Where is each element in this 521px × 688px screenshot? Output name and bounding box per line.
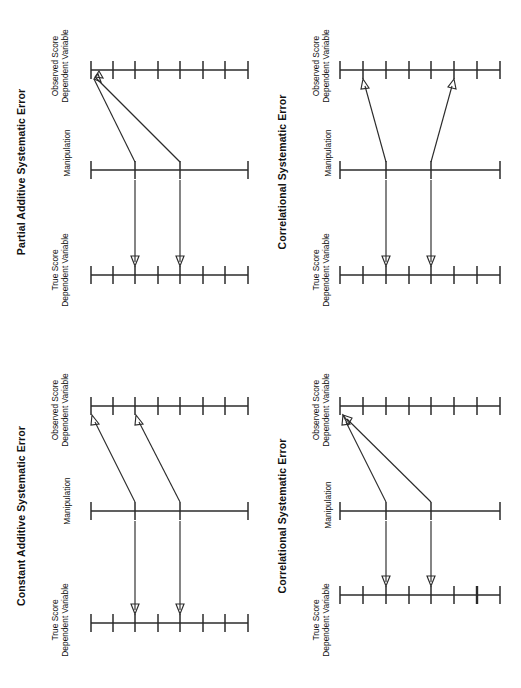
mapping-arrow-group (342, 415, 431, 502)
mapping-arrow-group (361, 79, 456, 162)
manipulation-axis (91, 502, 248, 520)
figure-canvas: Partial Additive Systematic Error Observ… (0, 0, 521, 688)
panel-correlational-systematic-error-top: Correlational Systematic Error Observed … (261, 0, 521, 344)
true-score-arrow-group (131, 180, 184, 266)
observed-score-axis (91, 61, 248, 79)
true-score-arrow-group (131, 521, 184, 614)
true-score-axis (340, 266, 500, 284)
panel-partial-additive-systematic-error: Partial Additive Systematic Error Observ… (0, 0, 260, 344)
observed-score-axis (91, 397, 248, 415)
observed-score-axis (340, 61, 500, 79)
manipulation-axis (340, 161, 500, 179)
manipulation-axis (91, 161, 248, 179)
observed-score-axis (340, 397, 500, 415)
true-score-arrow-group (382, 521, 435, 586)
true-score-axis (340, 586, 500, 604)
manipulation-axis (340, 502, 500, 520)
true-score-axis (91, 614, 248, 632)
mapping-arrow-group (94, 71, 180, 162)
true-score-axis (91, 266, 248, 284)
mapping-arrow-group (91, 415, 180, 502)
true-score-arrow-group (382, 180, 435, 266)
panel-constant-additive-systematic-error: Constant Additive Systematic Error Obser… (0, 344, 260, 688)
panel-correlational-systematic-error-bottom: Correlational Systematic Error Observed … (261, 344, 521, 688)
